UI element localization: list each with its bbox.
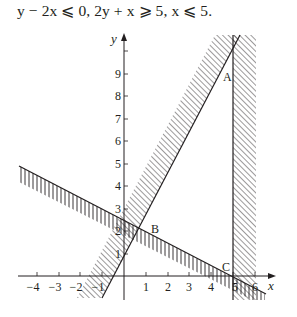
x-tick-label: −1 xyxy=(92,280,105,294)
x-axis-label: x xyxy=(267,278,274,293)
y-tick-label: 7 xyxy=(115,112,121,126)
x-tick-label: 1 xyxy=(143,280,149,294)
y-tick-labels: 1 2 3 4 5 6 7 8 9 xyxy=(115,67,121,261)
point-label-a: A xyxy=(223,70,232,84)
y-tick-label: 9 xyxy=(115,67,121,81)
x-tick-label: −4 xyxy=(27,280,40,294)
point-label-c: C xyxy=(222,260,230,274)
y-axis-label: y xyxy=(109,31,117,46)
y-tick-label: 3 xyxy=(115,202,121,216)
y-tick-label: 8 xyxy=(115,89,121,103)
hatch-region-x-5 xyxy=(233,35,256,300)
x-tick-label: 2 xyxy=(165,280,171,294)
x-tick-label: −3 xyxy=(49,280,62,294)
x-tick-label: 3 xyxy=(186,280,192,294)
y-tick-label: 4 xyxy=(115,179,121,193)
hatch-region-y-2x xyxy=(77,35,240,298)
point-label-b: B xyxy=(151,222,159,236)
x-tick-label: −2 xyxy=(70,280,83,294)
y-axis-arrow-icon xyxy=(121,33,127,41)
y-tick-label: 6 xyxy=(115,134,121,148)
y-tick-label: 5 xyxy=(115,157,121,171)
y-tick-label: 1 xyxy=(115,247,121,261)
x-tick-label: 4 xyxy=(208,280,214,294)
inequality-graph: x y −4 −3 −2 −1 1 2 3 4 5 6 xyxy=(0,0,297,317)
y-tick-label: 2 xyxy=(115,224,121,238)
